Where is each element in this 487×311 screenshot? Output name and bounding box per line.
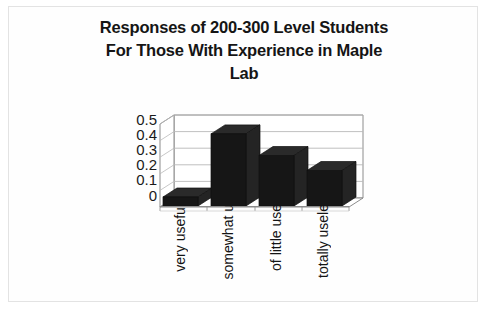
x-label-of-little-use: of little use (269, 204, 284, 300)
chart-title-line-2: For Those With Experience in Maple (34, 39, 454, 62)
x-label-very-useful: very useful (173, 204, 188, 300)
x-label-somewhat-useful: somewhat u (221, 204, 236, 300)
bar-chart: 0.5 0.4 0.3 0.2 0.1 0 (118, 112, 370, 302)
x-label-totally-useless: totally usele (316, 204, 331, 300)
chart-title: Responses of 200-300 Level Students For … (34, 16, 454, 85)
chart-title-line-1: Responses of 200-300 Level Students (34, 16, 454, 39)
chart-page: Responses of 200-300 Level Students For … (0, 0, 487, 311)
x-axis-tick-labels: very useful somewhat u of little use tot… (118, 112, 370, 302)
chart-title-line-3: Lab (34, 62, 454, 85)
